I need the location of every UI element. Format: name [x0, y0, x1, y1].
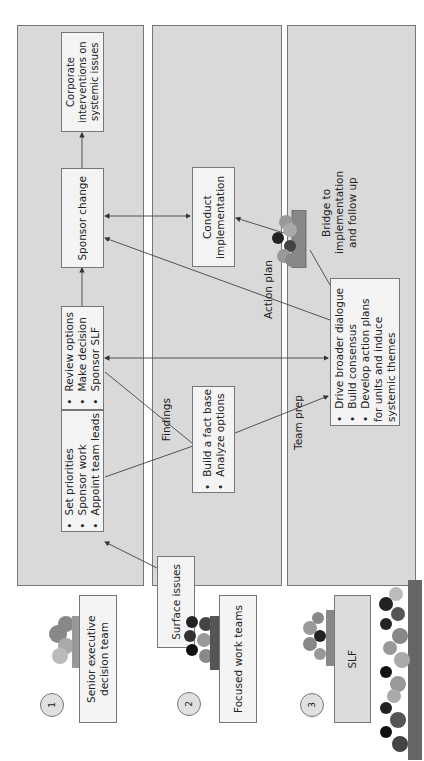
conduct-implementation-label: Conduct implementation — [201, 172, 227, 262]
box-conduct-implementation: Conduct implementation — [192, 167, 235, 267]
bullet-analyze-options: Analyze options — [214, 389, 227, 490]
box-sponsor-change: Sponsor change — [61, 168, 104, 268]
step-number-2: 2 — [177, 692, 201, 716]
box-review-options: Review options Make decision Sponsor SLF — [61, 306, 104, 410]
group-title-focused-work-teams: Focused work teams — [219, 595, 257, 723]
box-set-priorities: Set priorities Sponsor work Appoint team… — [61, 410, 104, 532]
step-number-3: 3 — [300, 693, 324, 717]
bullet-develop-action-plans: Develop action plans for units and induc… — [359, 282, 398, 422]
corporate-interventions-label: Corporate interventions on systemic issu… — [65, 34, 101, 130]
bridge-label: Bridge to implementation and follow up — [320, 165, 359, 260]
bullet-drive-broader-dialogue: Drive broader dialogue — [333, 282, 346, 422]
box-corporate-interventions: Corporate interventions on systemic issu… — [61, 32, 104, 132]
people-group-icon — [296, 608, 336, 668]
edge-label-findings: Findings — [160, 398, 173, 441]
people-group-icon — [268, 210, 312, 268]
bullet-appoint-team-leads: Appoint team leads — [89, 413, 102, 529]
people-group-icon — [38, 612, 82, 672]
box-drive-dialogue: Drive broader dialogue Build consensus D… — [330, 278, 400, 426]
bullet-set-priorities: Set priorities — [63, 413, 76, 529]
bullet-sponsor-work: Sponsor work — [76, 413, 89, 529]
box-fact-base: Build a fact base Analyze options — [192, 386, 235, 493]
sponsor-change-label: Sponsor change — [76, 176, 89, 261]
people-group-icon — [180, 612, 220, 672]
edge-label-action-plan: Action plan — [262, 260, 275, 319]
step-number-1: 1 — [40, 693, 64, 717]
bullet-sponsor-slf: Sponsor SLF — [89, 312, 102, 405]
bullet-make-decision: Make decision — [76, 312, 89, 405]
bullet-build-fact-base: Build a fact base — [201, 389, 214, 490]
group-title-slf: SLF — [334, 595, 371, 723]
edge-label-team-prep: Team prep — [292, 395, 305, 450]
group-title-senior-executive: Senior executive decision team — [79, 595, 117, 723]
bullet-build-consensus: Build consensus — [346, 282, 359, 422]
bullet-review-options: Review options — [63, 312, 76, 405]
people-group-icon — [368, 580, 424, 760]
